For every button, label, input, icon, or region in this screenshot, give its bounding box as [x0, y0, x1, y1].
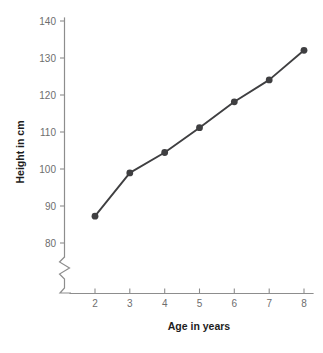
x-tick-label: 6 — [232, 298, 238, 309]
x-tick-label: 8 — [301, 298, 307, 309]
x-tick-label: 2 — [92, 298, 98, 309]
data-markers — [92, 47, 308, 220]
x-tick-label: 4 — [162, 298, 168, 309]
y-tick-label: 140 — [39, 16, 56, 27]
data-point-marker — [266, 77, 273, 84]
y-tick-label: 130 — [39, 53, 56, 64]
line-chart-figure: 140 130 120 110 100 90 80 2 3 4 5 6 7 8 — [0, 0, 323, 353]
y-axis-tick-labels: 140 130 120 110 100 90 80 — [39, 16, 56, 249]
x-axis-ticks — [95, 289, 304, 294]
x-tick-label: 7 — [266, 298, 272, 309]
x-axis-title: Age in years — [168, 320, 231, 332]
chart-plot-area: 140 130 120 110 100 90 80 2 3 4 5 6 7 8 — [0, 0, 323, 353]
y-tick-label: 80 — [45, 238, 57, 249]
x-tick-label: 5 — [197, 298, 203, 309]
data-point-marker — [301, 47, 308, 54]
data-point-marker — [92, 213, 99, 220]
data-point-marker — [161, 149, 168, 156]
y-tick-label: 90 — [45, 201, 57, 212]
y-tick-label: 110 — [40, 127, 56, 138]
y-axis-ticks — [60, 21, 65, 243]
y-tick-label: 120 — [39, 90, 56, 101]
y-axis-break-icon — [60, 257, 72, 293]
data-point-marker — [196, 124, 203, 131]
y-axis-title: Height in cm — [14, 120, 26, 183]
data-series-line — [95, 50, 304, 216]
x-axis-tick-labels: 2 3 4 5 6 7 8 — [92, 298, 307, 309]
data-point-marker — [231, 98, 238, 105]
y-tick-label: 100 — [39, 164, 56, 175]
data-point-marker — [126, 170, 133, 177]
x-tick-label: 3 — [127, 298, 133, 309]
